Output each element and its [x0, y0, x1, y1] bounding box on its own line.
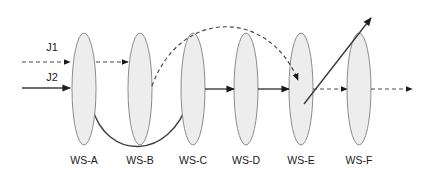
workstation-ws-c[interactable] — [181, 33, 205, 145]
route-j1-ws-b-to-ws-e — [152, 27, 298, 86]
workstation-label-ws-a: WS-A — [70, 154, 97, 166]
workstation-label-ws-e: WS-E — [287, 154, 314, 166]
routing-diagram: J1 J2 WS-A WS-B WS-C WS-D WS-E WS-F — [0, 0, 426, 178]
workstation-label-ws-d: WS-D — [232, 154, 260, 166]
diagram-canvas: J1 J2 WS-A WS-B WS-C WS-D WS-E WS-F — [0, 0, 426, 178]
workstation-ws-e[interactable] — [289, 33, 313, 145]
workstation-label-ws-c: WS-C — [179, 154, 207, 166]
job-label-j1: J1 — [46, 41, 58, 53]
workstation-ws-d[interactable] — [234, 33, 258, 145]
workstation-label-ws-f: WS-F — [346, 154, 373, 166]
workstation-ws-b[interactable] — [128, 33, 152, 145]
workstation-ws-a[interactable] — [72, 33, 96, 145]
job-label-j2: J2 — [46, 71, 58, 83]
workstation-ws-f[interactable] — [347, 33, 371, 145]
workstation-label-ws-b: WS-B — [126, 154, 153, 166]
